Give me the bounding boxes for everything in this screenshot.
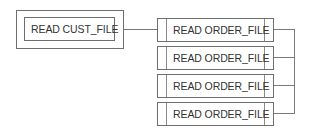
node-left-bar [166,75,167,97]
bracket-stub-2 [274,57,295,58]
node-left-bar [166,103,167,125]
bracket-stub-4 [274,113,295,114]
order-file-node-3: READ ORDER_FILE [157,74,274,98]
order-file-label: READ ORDER_FILE [173,108,270,120]
node-left-bar [166,19,167,41]
bracket-stub-3 [274,85,295,86]
order-file-node-1: READ ORDER_FILE [157,18,274,42]
order-file-label: READ ORDER_FILE [173,24,270,36]
cust-file-label: READ CUST_FILE [31,23,118,35]
order-file-node-4: READ ORDER_FILE [157,102,274,126]
root-connector [124,29,157,30]
cust-file-inner-box: READ CUST_FILE [24,17,115,41]
order-file-node-2: READ ORDER_FILE [157,46,274,70]
order-file-label: READ ORDER_FILE [173,80,270,92]
node-left-bar [166,47,167,69]
order-file-label: READ ORDER_FILE [173,52,270,64]
bracket-stub-1 [274,29,295,30]
bracket-vertical [294,29,295,114]
